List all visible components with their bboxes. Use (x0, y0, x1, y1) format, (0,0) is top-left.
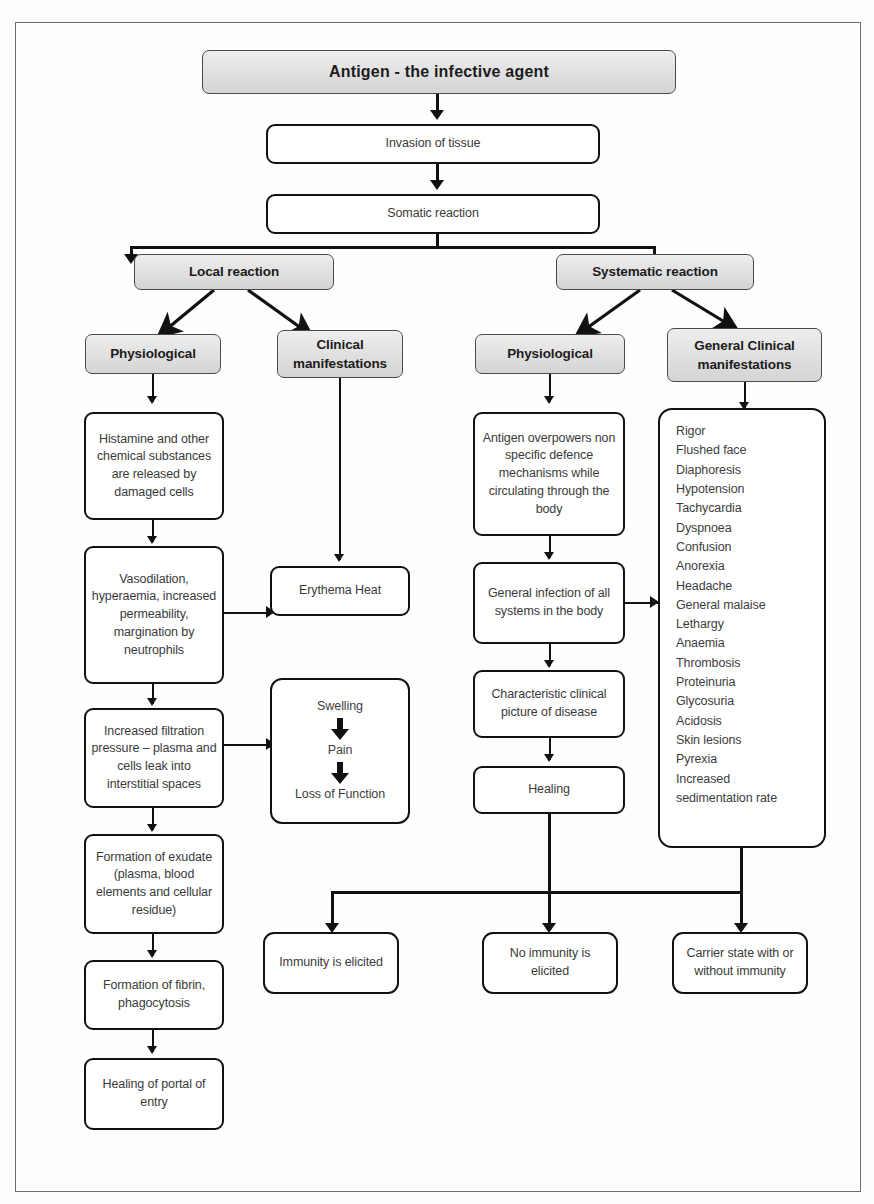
label-swelling: Swelling (317, 698, 363, 716)
symptom-item: General malaise (676, 596, 777, 615)
node-healing-portal[interactable]: Healing of portal of entry (84, 1058, 224, 1130)
node-local-physiological[interactable]: Physiological (85, 334, 221, 374)
node-antigen[interactable]: Antigen - the infective agent (202, 50, 676, 94)
node-filtration[interactable]: Increased filtration pressure – plasma a… (84, 708, 224, 808)
connector-somatic-split-bar (130, 246, 655, 249)
symptom-item: Dyspnoea (676, 519, 777, 538)
symptom-list-items: RigorFlushed faceDiaphoresisHypotensionT… (676, 422, 777, 808)
symptom-item: Skin lesions (676, 731, 777, 750)
arrowhead-fibrin-healing-portal (147, 1046, 157, 1054)
node-systemic-physiological[interactable]: Physiological (475, 334, 625, 374)
arrowhead-clinical-erythema (334, 554, 344, 562)
symptom-item: Confusion (676, 538, 777, 557)
node-antigen-overpowers[interactable]: Antigen overpowers non specific defence … (473, 412, 625, 536)
node-erythema-heat[interactable]: Erythema Heat (270, 566, 410, 616)
connector-healing-bottom-stem (548, 814, 551, 893)
symptom-item: sedimentation rate (676, 789, 777, 808)
symptom-item: Pyrexia (676, 750, 777, 769)
connector-vasodilation-erythema (224, 612, 270, 614)
symptom-item: Proteinuria (676, 673, 777, 692)
node-somatic-reaction[interactable]: Somatic reaction (266, 194, 600, 234)
arrow-pain-loss (331, 762, 349, 784)
label-loss-of-function: Loss of Function (295, 786, 385, 804)
connector-bottom-left-drop (331, 891, 334, 927)
symptom-item: Acidosis (676, 712, 777, 731)
node-swelling-chain[interactable]: Swelling Pain Loss of Function (270, 678, 410, 824)
node-histamine[interactable]: Histamine and other chemical substances … (84, 412, 224, 520)
node-vasodilation[interactable]: Vasodilation, hyperaemia, increased perm… (84, 546, 224, 684)
arrowhead-antigen-invasion (430, 110, 444, 120)
node-systematic-reaction[interactable]: Systematic reaction (556, 254, 754, 290)
symptom-item: Lethargy (676, 615, 777, 634)
arrowhead-systemic-antigen (544, 396, 554, 404)
arrowhead-vasodilation-filtration (147, 698, 157, 706)
symptom-item: Rigor (676, 422, 777, 441)
node-immunity-elicited[interactable]: Immunity is elicited (263, 932, 399, 994)
node-general-infection[interactable]: General infection of all systems in the … (473, 562, 625, 644)
node-no-immunity-elicited[interactable]: No immunity is elicited (482, 932, 618, 994)
node-symptom-list[interactable]: RigorFlushed faceDiaphoresisHypotensionT… (658, 408, 826, 848)
node-clinical-manifestations[interactable]: Clinical manifestations (277, 330, 403, 378)
connector-bottom-right-drop (740, 891, 743, 927)
symptom-item: Glycosuria (676, 692, 777, 711)
symptom-item: Diaphoresis (676, 461, 777, 480)
node-characteristic-picture[interactable]: Characteristic clinical picture of disea… (473, 670, 625, 738)
node-general-clinical-manifestations[interactable]: General Clinical manifestations (667, 328, 822, 382)
symptom-item: Anorexia (676, 557, 777, 576)
symptom-item: Flushed face (676, 441, 777, 460)
node-exudate[interactable]: Formation of exudate (plasma, blood elem… (84, 834, 224, 934)
symptom-item: Hypotension (676, 480, 777, 499)
arrow-swelling-pain (331, 718, 349, 740)
symptom-item: Thrombosis (676, 654, 777, 673)
connector-filtration-swelling (224, 744, 270, 746)
arrowhead-general-infection-characteristic (544, 660, 554, 668)
node-fibrin[interactable]: Formation of fibrin, phagocytosis (84, 960, 224, 1030)
symptom-item: Anaemia (676, 634, 777, 653)
symptom-item: Headache (676, 577, 777, 596)
arrowhead-filtration-exudate (147, 824, 157, 832)
arrowhead-characteristic-healing (544, 754, 554, 762)
label-pain: Pain (328, 742, 353, 760)
arrowhead-histamine-vasodilation (147, 536, 157, 544)
connector-bottom-mid-drop (548, 891, 551, 927)
connector-clinical-erythema (339, 378, 341, 560)
arrowhead-physiological-histamine (147, 396, 157, 404)
flowchart-canvas: Antigen - the infective agent Invasion o… (0, 0, 874, 1204)
node-healing[interactable]: Healing (473, 766, 625, 814)
node-local-reaction[interactable]: Local reaction (134, 254, 334, 290)
symptom-item: Tachycardia (676, 499, 777, 518)
node-carrier-state[interactable]: Carrier state with or without immunity (672, 932, 808, 994)
swelling-inner: Swelling Pain Loss of Function (277, 698, 403, 803)
arrowhead-overpowers-general-infection (544, 552, 554, 560)
arrowhead-invasion-somatic (430, 180, 444, 190)
node-invasion-of-tissue[interactable]: Invasion of tissue (266, 124, 600, 164)
symptom-item: Increased (676, 770, 777, 789)
connector-bottom-distribution-bar (331, 891, 742, 894)
arrowhead-exudate-fibrin (147, 950, 157, 958)
connector-symptoms-bottom-stem (740, 848, 743, 893)
